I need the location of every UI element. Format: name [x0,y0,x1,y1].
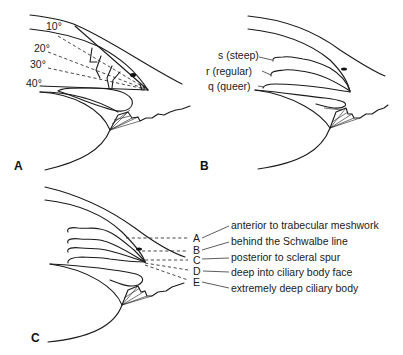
panel-b-lens [255,90,330,169]
panel-b-schwalbe-line-marker [341,67,347,70]
panel-c-label: C [31,331,40,345]
panel-c-dash-e [145,265,188,280]
panel-c-leader-d [203,271,229,272]
panel-c-outer-cornea [45,187,185,257]
panel-a-angle-label-10: 10° [46,20,62,32]
panel-c-level-a-description: anterior to trabecular meshwork [231,219,379,231]
panel-c-leader-b [202,242,229,250]
panel-a-angle-label-40: 40° [26,77,42,89]
panel-b-label-regular: r (regular) [206,65,252,77]
panel-a-arc-2 [96,56,101,78]
panel-b-outer-cornea [248,16,385,76]
panel-b-label-steep: s (steep) [218,49,259,61]
panel-c-lens [48,264,122,342]
panel-c-level-a-letter: A [193,232,200,244]
panel-c-leader-c [202,258,229,259]
panel-c-level-d-description: deep into ciliary body face [231,266,353,278]
panel-a-angle-label-30: 30° [30,58,46,70]
panel-c-level-e-description: extremely deep ciliary body [231,282,359,294]
panel-b-label-queer: q (queer) [208,80,251,92]
panel-c-schwalbe-line-marker [136,247,142,250]
panel-c-level-b-description: behind the Schwalbe line [231,235,348,247]
panel-b-leader-queer [258,86,264,87]
panel-c-level-c-description: posterior to scleral spur [231,251,341,263]
panel-a-angle-label-20: 20° [34,42,50,54]
panel-a: 10° 20° 30° 40° A [14,15,190,173]
panel-c-leader-e [202,282,229,288]
panel-b-iris-profile-regular [271,70,350,91]
anterior-chamber-angle-diagram: 10° 20° 30° 40° A s (steep) r (regular) … [0,0,403,355]
panel-a-iris-fold [40,92,118,112]
panel-a-iris-body [58,88,132,111]
panel-c-dash-d [145,263,188,270]
panel-c: A B C D E anterior to trabecular meshwor… [31,187,379,345]
panel-b-leader-steep [259,57,272,60]
panel-a-label: A [14,159,23,173]
panel-c-iris-base [50,264,143,286]
panel-a-arc-4 [112,72,120,88]
panel-a-lens [40,92,110,170]
panel-b-iris-profile-queer [263,84,350,92]
panel-a-arc-3 [107,66,112,88]
panel-b-label: B [200,159,209,173]
panel-b-leader-regular [262,71,271,75]
panel-a-arc-1 [90,48,97,62]
panel-a-schwalbe-line-marker [130,73,136,77]
panel-b: s (steep) r (regular) q (queer) B [200,16,388,173]
panel-c-leader-a [202,226,229,238]
panel-c-level-e-letter: E [193,276,200,288]
panel-a-dash-10 [58,36,145,88]
